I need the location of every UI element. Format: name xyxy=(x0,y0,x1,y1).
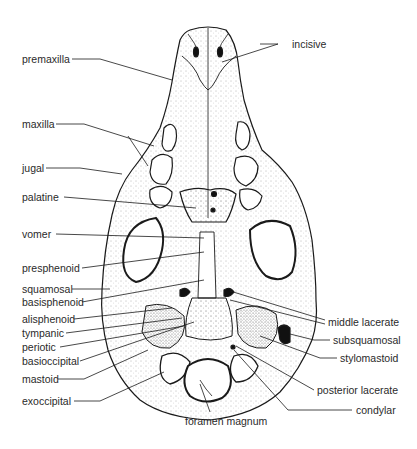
label-periotic: periotic xyxy=(22,341,56,353)
label-incisive: incisive xyxy=(292,38,326,50)
label-exoccipital: exoccipital xyxy=(22,395,71,407)
label-maxilla: maxilla xyxy=(22,118,55,130)
label-jugal: jugal xyxy=(22,162,44,174)
label-squamosal: squamosal xyxy=(22,283,73,295)
label-foramen-magnum: foramen magnum xyxy=(185,415,267,427)
skull-diagram: premaxilla maxilla jugal palatine vomer … xyxy=(0,0,417,449)
skull-outline xyxy=(102,27,317,420)
label-basioccipital: basioccipital xyxy=(22,355,79,367)
label-palatine: palatine xyxy=(22,191,59,203)
label-subsquamosal: subsquamosal xyxy=(333,334,401,346)
label-tympanic: tympanic xyxy=(22,327,64,339)
label-premaxilla: premaxilla xyxy=(22,53,70,65)
label-vomer: vomer xyxy=(22,228,51,240)
skull-illustration xyxy=(0,0,417,449)
label-middle-lacerate: middle lacerate xyxy=(328,316,399,328)
label-condylar: condylar xyxy=(356,404,396,416)
label-posterior-lacerate: posterior lacerate xyxy=(317,384,398,396)
label-mastoid: mastoid xyxy=(22,373,59,385)
label-alisphenoid: alisphenoid xyxy=(22,313,75,325)
label-presphenoid: presphenoid xyxy=(22,262,80,274)
label-basisphenoid: basisphenoid xyxy=(22,296,84,308)
label-stylomastoid: stylomastoid xyxy=(340,352,398,364)
